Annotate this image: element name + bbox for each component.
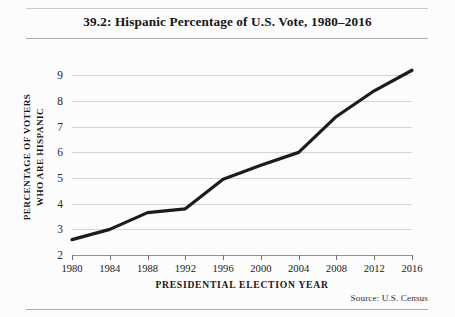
y-tick-label-2: 2 bbox=[57, 249, 63, 261]
plot-area: 23456789 1980198419881992199620002004200… bbox=[72, 60, 412, 255]
x-tick-label-1988: 1988 bbox=[137, 263, 158, 274]
x-tick-mark-1980 bbox=[72, 255, 73, 260]
x-tick-mark-1992 bbox=[185, 255, 186, 260]
x-tick-mark-1996 bbox=[223, 255, 224, 260]
figure-chart-39-2: 39.2: Hispanic Percentage of U.S. Vote, … bbox=[0, 0, 455, 317]
y-tick-label-5: 5 bbox=[57, 172, 63, 184]
data-line-series bbox=[72, 60, 412, 255]
x-tick-mark-1984 bbox=[110, 255, 111, 260]
x-tick-mark-2016 bbox=[412, 255, 413, 260]
series-line-0 bbox=[72, 70, 412, 239]
page-rule-top bbox=[26, 8, 428, 9]
y-axis-label-line-2: WHO ARE HISPANIC bbox=[34, 108, 44, 206]
y-tick-label-4: 4 bbox=[57, 198, 63, 210]
page-rule-bottom bbox=[26, 309, 428, 310]
source-note: Source: U.S. Census bbox=[351, 293, 428, 303]
x-tick-label-1980: 1980 bbox=[61, 263, 82, 274]
y-tick-label-9: 9 bbox=[57, 69, 63, 81]
y-tick-label-8: 8 bbox=[57, 95, 63, 107]
x-tick-label-1984: 1984 bbox=[99, 263, 120, 274]
chart-title: 39.2: Hispanic Percentage of U.S. Vote, … bbox=[0, 14, 455, 30]
x-tick-mark-1988 bbox=[148, 255, 149, 260]
x-tick-label-2000: 2000 bbox=[250, 263, 271, 274]
x-tick-label-1992: 1992 bbox=[175, 263, 196, 274]
x-tick-mark-2008 bbox=[336, 255, 337, 260]
y-tick-label-6: 6 bbox=[57, 146, 63, 158]
x-tick-mark-2012 bbox=[374, 255, 375, 260]
y-axis-label: PERCENTAGE OF VOTERS WHO ARE HISPANIC bbox=[18, 62, 48, 252]
x-tick-mark-2004 bbox=[299, 255, 300, 260]
page-rule-under-title bbox=[26, 38, 428, 39]
x-axis-line bbox=[72, 255, 412, 256]
x-tick-label-2012: 2012 bbox=[364, 263, 385, 274]
x-tick-label-2016: 2016 bbox=[401, 263, 422, 274]
x-tick-label-1996: 1996 bbox=[213, 263, 234, 274]
x-tick-label-2004: 2004 bbox=[288, 263, 309, 274]
y-tick-label-7: 7 bbox=[57, 121, 63, 133]
y-tick-label-3: 3 bbox=[57, 223, 63, 235]
x-tick-label-2008: 2008 bbox=[326, 263, 347, 274]
x-tick-mark-2000 bbox=[261, 255, 262, 260]
y-axis-label-line-1: PERCENTAGE OF VOTERS bbox=[22, 94, 32, 221]
x-axis-label: PRESIDENTIAL ELECTION YEAR bbox=[72, 279, 412, 290]
